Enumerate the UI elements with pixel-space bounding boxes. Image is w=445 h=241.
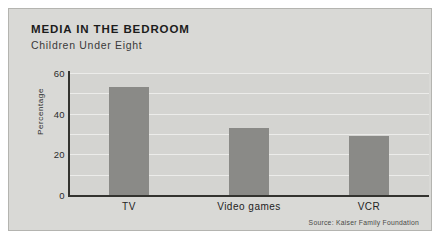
x-tick-label: VCR [358, 201, 381, 212]
x-tick-label: TV [122, 201, 136, 212]
chart-figure: MEDIA IN THE BEDROOM Children Under Eigh… [8, 8, 432, 231]
bar-video-games [229, 128, 269, 195]
bar-vcr [349, 136, 389, 195]
gridline [69, 73, 429, 74]
chart-header: MEDIA IN THE BEDROOM Children Under Eigh… [31, 22, 361, 52]
y-axis-title: Percentage [36, 77, 45, 147]
x-tick-label: Video games [217, 201, 281, 212]
y-tick-label: 20 [17, 149, 65, 160]
source-note: Source: Kaiser Family Foundation [309, 219, 419, 226]
y-axis-line [68, 71, 70, 197]
x-axis-line [68, 195, 429, 197]
chart-subtitle: Children Under Eight [31, 38, 361, 52]
y-tick-label: 0 [17, 190, 65, 201]
bar-tv [109, 87, 149, 195]
chart-title: MEDIA IN THE BEDROOM [31, 22, 361, 36]
plot-area [69, 73, 429, 195]
